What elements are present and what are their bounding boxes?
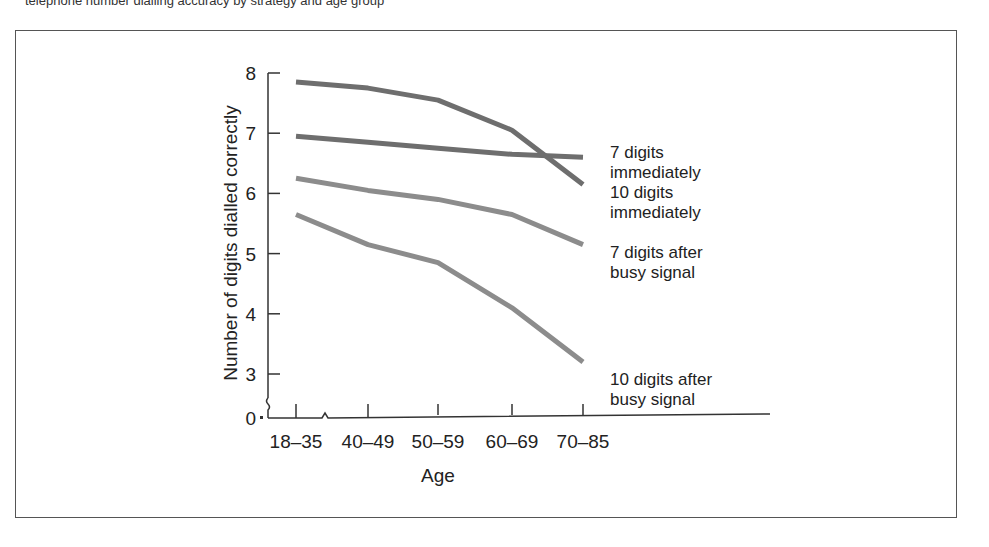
x-axis-title: Age xyxy=(421,465,455,486)
x-tick-label: 70–85 xyxy=(557,431,610,452)
y-axis-title: Number of digits dialled correctly xyxy=(220,105,241,381)
y-tick-label: 5 xyxy=(245,244,256,265)
series-line xyxy=(296,82,583,184)
y-tick-label: 6 xyxy=(245,183,256,204)
y-tick-label: 8 xyxy=(245,63,256,84)
x-tick-label: 40–49 xyxy=(342,431,395,452)
y-tick-label: 4 xyxy=(245,304,256,325)
y-tick-label: 3 xyxy=(245,364,256,385)
series-label: busy signal xyxy=(610,390,695,409)
x-tick-label: 60–69 xyxy=(486,431,539,452)
series-lines xyxy=(296,82,583,362)
series-label: 10 digits after xyxy=(610,370,712,389)
y-tick-label: 7 xyxy=(245,123,256,144)
series-label: immediately xyxy=(610,163,701,182)
x-tick-label: 50–59 xyxy=(412,431,465,452)
series-label: 7 digits xyxy=(610,143,664,162)
legend-labels: 7 digitsimmediately10 digitsimmediately7… xyxy=(610,143,712,409)
series-label: immediately xyxy=(610,203,701,222)
x-tick-label: 18–35 xyxy=(270,431,323,452)
series-label: 7 digits after xyxy=(610,243,703,262)
series-line xyxy=(296,215,583,363)
series-label: busy signal xyxy=(610,263,695,282)
y-tick-label: 0 xyxy=(245,408,256,429)
series-label: 10 digits xyxy=(610,183,673,202)
line-chart: 034567818–3540–4950–5960–6970–85AgeNumbe… xyxy=(0,0,989,547)
